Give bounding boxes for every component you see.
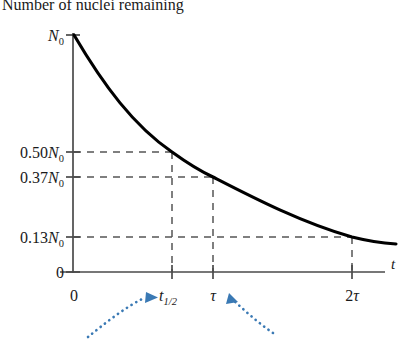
callout-arrow-left-head bbox=[145, 292, 158, 303]
decay-curve-figure: Number of nuclei remaining bbox=[0, 0, 407, 341]
callout-arrow-right-path bbox=[232, 299, 273, 333]
x-axis-name: t bbox=[391, 256, 396, 272]
x-label-zero: 0 bbox=[70, 287, 78, 304]
x-label-thalf: t1/2 bbox=[159, 287, 178, 307]
y-label-037: 0.37N0 bbox=[20, 169, 64, 189]
y-axis-labels: N0 0.50N0 0.37N0 0.13N0 0 bbox=[20, 27, 64, 281]
guide-lines-group bbox=[74, 152, 352, 272]
y-label-013: 0.13N0 bbox=[20, 229, 64, 249]
callout-arrow-to-tau bbox=[226, 293, 273, 333]
callout-arrow-left-path bbox=[88, 298, 144, 337]
exponential-decay-curve bbox=[74, 35, 396, 244]
y-label-050: 0.50N0 bbox=[20, 144, 64, 164]
y-label-zero: 0 bbox=[56, 264, 64, 281]
x-label-2tau: 2τ bbox=[345, 287, 360, 304]
y-label-n0: N0 bbox=[47, 27, 64, 47]
chart-plot-area: N0 0.50N0 0.37N0 0.13N0 0 0 t1/2 τ 2τ t bbox=[0, 0, 407, 341]
x-label-tau: τ bbox=[210, 287, 217, 304]
callout-arrow-to-half-life bbox=[88, 292, 158, 337]
